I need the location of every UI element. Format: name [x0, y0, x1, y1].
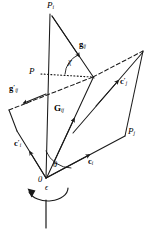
label-G-ij: Gij [54, 104, 64, 114]
edge-topright-to-pj [125, 51, 143, 136]
label-point-pi: Pi [47, 1, 54, 11]
label-epsilon: ϵ [45, 184, 48, 192]
diagram-canvas [0, 0, 150, 230]
label-origin: 0 [38, 175, 42, 184]
g-prime-ij-arrowhead [24, 94, 46, 103]
dashed-plane-line-right [93, 51, 143, 77]
label-point-pj: Pj [128, 127, 135, 137]
label-angle-chi: χ [68, 57, 72, 66]
label-c-prime-i: c′i [14, 139, 21, 148]
label-angle-theta: θ [53, 160, 57, 169]
g-ij-arrowhead [52, 16, 79, 56]
label-g-prime-ij: g′ij [9, 84, 18, 93]
label-c-prime-j: c′j [120, 77, 127, 86]
label-point-p: P [29, 67, 35, 76]
edge-leftcorner-to-dashed-vertex [9, 110, 17, 131]
label-g-ij: gij [79, 40, 86, 49]
rotation-arrow-head [28, 189, 36, 198]
G-ij-arrowhead [54, 119, 74, 162]
c-prime-j-arrowhead [96, 81, 118, 106]
rotation-arrow-epsilon [29, 188, 68, 201]
label-c-i: ci [88, 157, 93, 166]
vector-diagram-figure: Pi gij χ P g′ij Gij c′j Pj c′i ci θ 0 ϵ [0, 0, 150, 230]
